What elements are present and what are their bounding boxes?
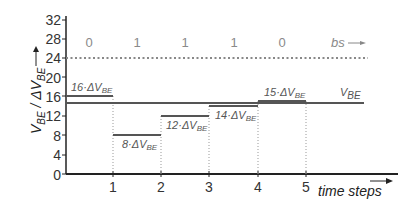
y-tick-label: 0 (53, 167, 61, 183)
x-axis-arrow-icon (386, 178, 393, 184)
bitstream-arrow-icon (360, 41, 366, 45)
y-axis-arrow-icon (33, 46, 39, 52)
y-tick-label: 4 (53, 147, 61, 163)
y-tick-label: 20 (45, 70, 61, 86)
bit-value: 0 (278, 35, 285, 50)
x-axis-title: time steps (318, 183, 382, 199)
x-tick-label: 2 (157, 179, 165, 195)
y-tick-labels: 0 4 8 12 16 20 24 28 32 (45, 12, 61, 183)
y-tick-label: 16 (45, 89, 61, 105)
bit-value: 1 (230, 35, 237, 50)
y-tick-label: 8 (53, 128, 61, 144)
y-axis-title: VBE / ΔVBE (28, 46, 47, 134)
bit-value: 1 (133, 35, 140, 50)
step-annotation: 8·ΔVBE (122, 138, 158, 152)
y-tick-label: 28 (45, 31, 61, 47)
step-annotation: 15·ΔVBE (264, 86, 306, 100)
chart: 0 4 8 12 16 20 24 28 32 VBE / ΔVBE 1 2 3… (0, 0, 412, 206)
step-annotation: 12·ΔVBE (166, 119, 208, 133)
y-tick-label: 32 (45, 12, 61, 28)
bit-value: 1 (181, 35, 188, 50)
y-tick-label: 24 (45, 50, 61, 66)
step-annotation: 16·ΔVBE (71, 81, 113, 95)
step-annotation: 14·ΔVBE (215, 109, 257, 123)
bitstream-label: bs (331, 35, 345, 50)
x-tick-label: 4 (254, 179, 262, 195)
vbe-label: VBE (340, 86, 361, 101)
y-tick-label: 12 (45, 108, 61, 124)
bit-value: 0 (85, 35, 92, 50)
x-tick-labels: 1 2 3 4 5 (109, 179, 310, 195)
svg-text:VBE / ΔVBE: VBE / ΔVBE (28, 67, 47, 134)
x-tick-label: 5 (302, 179, 310, 195)
x-tick-label: 1 (109, 179, 117, 195)
bitstream-values: 0 1 1 1 0 (85, 35, 285, 50)
x-tick-label: 3 (205, 179, 213, 195)
